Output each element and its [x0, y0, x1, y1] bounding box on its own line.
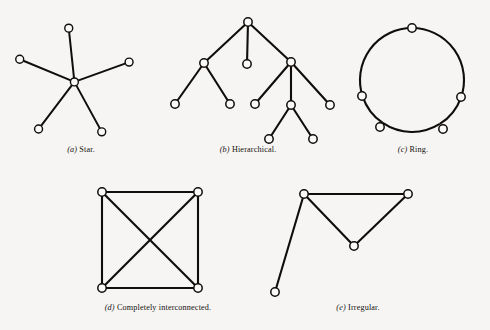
graph-edge — [360, 28, 412, 96]
caption-ring-text: Ring. — [410, 145, 429, 154]
hierarchical-topology-graph — [158, 8, 348, 150]
graph-edge — [20, 59, 75, 82]
caption-ring-tag: (c) — [398, 145, 408, 154]
graph-edge — [255, 62, 291, 104]
graph-node — [98, 128, 106, 136]
caption-star: (a) Star. — [2, 145, 160, 154]
graph-edge — [247, 22, 248, 64]
caption-hierarchical: (b) Hierarchical. — [158, 145, 338, 154]
graph-edge — [74, 62, 129, 82]
graph-node — [16, 55, 24, 63]
graph-node — [300, 190, 308, 198]
graph-edge — [175, 63, 204, 104]
caption-star-text: Star. — [79, 145, 95, 154]
graph-edge — [412, 28, 464, 97]
graph-edge — [248, 22, 291, 62]
graph-node — [350, 242, 358, 250]
graph-node — [98, 188, 106, 196]
graph-node — [309, 135, 317, 143]
caption-hierarchical-text: Hierarchical. — [232, 145, 276, 154]
caption-completely-interconnected: (d) Completely interconnected. — [48, 303, 268, 312]
graph-node — [244, 18, 252, 26]
graph-edge — [304, 194, 354, 246]
graph-edge — [440, 97, 461, 124]
graph-node — [271, 288, 279, 296]
caption-irregular-text: Irregular. — [348, 303, 380, 312]
graph-node — [358, 92, 366, 100]
caption-irregular-tag: (e) — [336, 303, 346, 312]
completely-interconnected-topology-graph — [58, 178, 248, 304]
graph-edge — [74, 82, 101, 132]
diagram-panel-star — [2, 14, 160, 146]
graph-node — [251, 100, 259, 108]
graph-node — [226, 100, 234, 108]
graph-node — [35, 125, 43, 133]
edge-layer — [360, 28, 464, 132]
caption-ring: (c) Ring. — [338, 145, 488, 154]
graph-node — [200, 59, 208, 67]
graph-edge — [39, 82, 75, 129]
node-layer — [171, 18, 334, 143]
star-topology-graph — [2, 14, 160, 146]
graph-edge — [383, 123, 440, 132]
edge-layer — [102, 192, 198, 288]
graph-edge — [362, 96, 382, 123]
graph-edge — [69, 28, 75, 82]
graph-edge — [275, 194, 304, 292]
graph-node — [376, 123, 384, 131]
graph-node — [326, 101, 334, 109]
graph-node — [287, 58, 295, 66]
caption-completely-interconnected-text: Completely interconnected. — [117, 303, 211, 312]
graph-node — [194, 284, 202, 292]
graph-node — [125, 58, 133, 66]
graph-node — [439, 125, 447, 133]
diagram-panel-irregular — [258, 178, 458, 304]
graph-node — [65, 24, 73, 32]
graph-node — [457, 93, 465, 101]
graph-node — [243, 60, 251, 68]
irregular-topology-graph — [258, 178, 448, 304]
graph-node — [287, 101, 295, 109]
graph-node — [404, 190, 412, 198]
graph-node — [98, 284, 106, 292]
graph-node — [408, 24, 416, 32]
topology-figure-plate: (a) Star. (b) Hierarchical. (c) Ring. (d… — [0, 0, 490, 330]
graph-node — [171, 100, 179, 108]
diagram-panel-completely-interconnected — [58, 178, 258, 304]
graph-edge — [204, 63, 230, 104]
graph-edge — [354, 194, 408, 246]
caption-completely-interconnected-tag: (d) — [105, 303, 115, 312]
graph-edge — [269, 105, 291, 139]
graph-edge — [291, 62, 330, 105]
diagram-panel-hierarchical — [158, 8, 338, 146]
graph-node — [194, 188, 202, 196]
node-layer — [271, 190, 412, 296]
caption-irregular: (e) Irregular. — [258, 303, 458, 312]
graph-node — [70, 78, 78, 86]
diagram-panel-ring — [338, 14, 488, 146]
caption-star-tag: (a) — [67, 145, 77, 154]
edge-layer — [275, 194, 408, 292]
caption-hierarchical-tag: (b) — [220, 145, 230, 154]
edge-layer — [175, 22, 330, 139]
graph-edge — [291, 105, 313, 139]
ring-topology-graph — [338, 14, 488, 146]
graph-edge — [204, 22, 248, 63]
graph-node — [265, 135, 273, 143]
node-layer — [16, 24, 133, 136]
